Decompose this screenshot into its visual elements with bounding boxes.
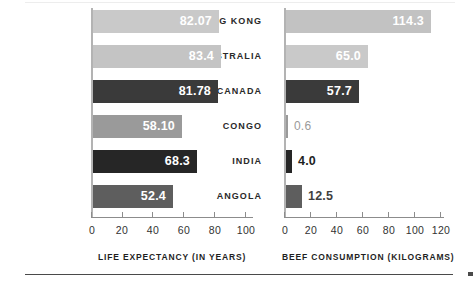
x-tick-label-60: 60	[169, 224, 199, 236]
x-tick-0	[91, 212, 92, 217]
chart-figure: HONG KONG AUSTRALIA CANADA CONGO INDIA A…	[0, 0, 476, 281]
panel-life-expectancy: HONG KONG AUSTRALIA CANADA CONGO INDIA A…	[0, 0, 262, 281]
category-label-angola: ANGOLA	[178, 185, 262, 208]
bottom-divider	[25, 274, 453, 275]
bar-value-hong-kong: 82.07	[180, 10, 212, 33]
bar-angola: 52.4	[93, 185, 173, 208]
bar-india-beef: 4.0	[286, 150, 292, 173]
x-tick-80	[214, 212, 215, 217]
x-tick-label-0: 0	[77, 224, 107, 236]
x-tick-label-80: 80	[200, 224, 230, 236]
bar-value-india: 68.3	[165, 150, 190, 173]
bar-australia: 83.4	[93, 45, 221, 68]
x-tick-100-right	[414, 212, 415, 217]
bottom-divider-tail	[468, 272, 473, 276]
x-tick-40-right	[336, 212, 337, 217]
bar-value-india-beef: 4.0	[298, 150, 316, 173]
bar-hong-kong-beef: 114.3	[286, 10, 431, 33]
bar-value-canada-beef: 57.7	[327, 80, 352, 103]
bar-india: 68.3	[93, 150, 197, 173]
bar-congo-beef: 0.6	[286, 115, 288, 138]
bar-value-australia-beef: 65.0	[336, 45, 361, 68]
x-axis-line-right	[284, 217, 444, 218]
bar-australia-beef: 65.0	[286, 45, 368, 68]
x-tick-60-right	[362, 212, 363, 217]
bar-value-australia: 83.4	[189, 45, 214, 68]
axis-caption-beef-consumption: BEEF CONSUMPTION (KILOGRAMS)	[282, 252, 455, 262]
bar-hong-kong: 82.07	[93, 10, 219, 33]
x-tick-40	[152, 212, 153, 217]
bar-canada-beef: 57.7	[286, 80, 359, 103]
x-tick-20-right	[310, 212, 311, 217]
x-tick-label-40: 40	[138, 224, 168, 236]
x-tick-80-right	[388, 212, 389, 217]
bar-value-angola-beef: 12.5	[308, 185, 333, 208]
bar-value-angola: 52.4	[141, 185, 166, 208]
x-tick-0-right	[284, 212, 285, 217]
bar-value-congo-beef: 0.6	[294, 115, 311, 138]
bar-congo: 58.10	[93, 115, 182, 138]
bar-canada: 81.78	[93, 80, 218, 103]
bar-value-canada: 81.78	[179, 80, 211, 103]
x-tick-label-100: 100	[231, 224, 261, 236]
panel-beef-consumption: 114.3 65.0 57.7 0.6 4.0 12.5 0 20 40 60 …	[262, 0, 476, 281]
x-axis-line	[91, 217, 253, 218]
category-label-congo: CONGO	[178, 115, 262, 138]
x-tick-label-120-right: 120	[426, 224, 456, 236]
bar-value-congo: 58.10	[143, 115, 175, 138]
x-tick-100	[245, 212, 246, 217]
x-tick-120-right	[440, 212, 441, 217]
bar-value-hong-kong-beef: 114.3	[392, 10, 424, 33]
x-tick-label-20: 20	[107, 224, 137, 236]
x-tick-20	[122, 212, 123, 217]
axis-caption-life-expectancy: LIFE EXPECTANCY (IN YEARS)	[98, 252, 246, 262]
bar-angola-beef: 12.5	[286, 185, 302, 208]
x-tick-60	[183, 212, 184, 217]
